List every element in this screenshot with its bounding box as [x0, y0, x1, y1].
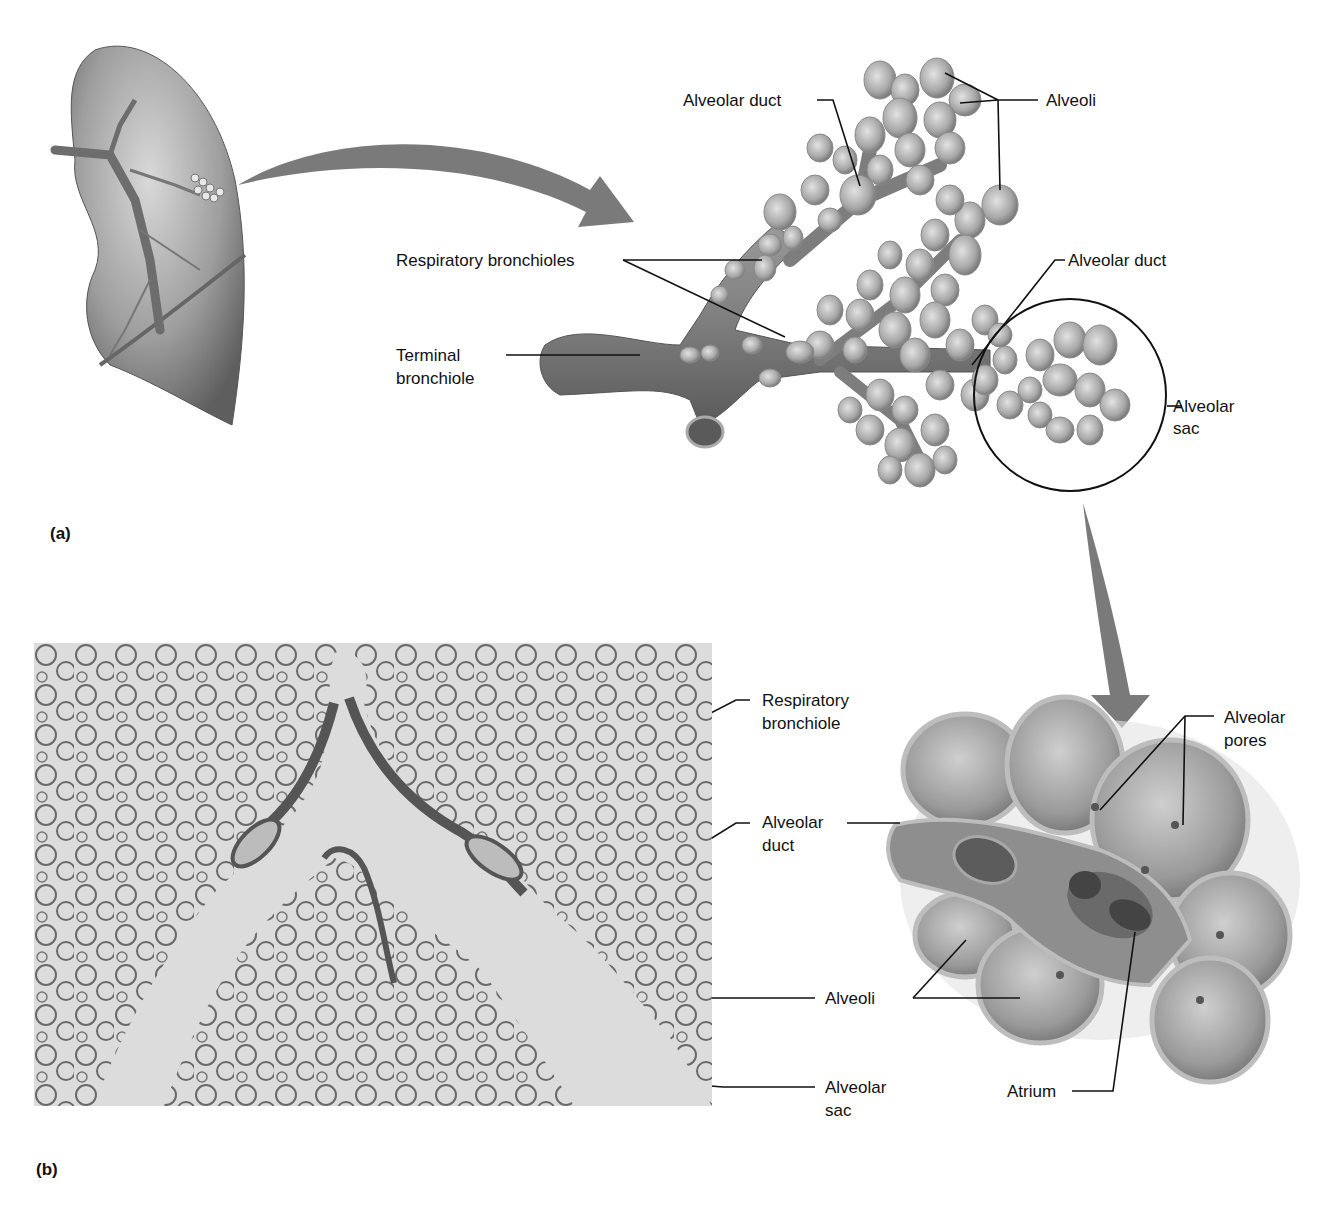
- label-respiratory-bronchiole-1: Respiratory: [762, 690, 849, 712]
- micrograph-tissue: [34, 643, 712, 1106]
- label-atrium: Atrium: [1007, 1081, 1056, 1103]
- down-arrow-icon: [1083, 503, 1150, 728]
- label-alveolar-sac-a-1: Alveolar: [1173, 396, 1234, 418]
- lung-illustration: [55, 46, 245, 425]
- label-alveolar-pores-2: pores: [1224, 730, 1267, 752]
- label-alveolar-sac-b-1: Alveolar: [825, 1077, 886, 1099]
- label-terminal-bronchiole-1: Terminal: [396, 345, 460, 367]
- label-alveoli-top: Alveoli: [1046, 90, 1096, 112]
- label-alveolar-duct-top: Alveolar duct: [683, 90, 781, 112]
- label-terminal-bronchiole-2: bronchiole: [396, 368, 474, 390]
- label-alveolar-pores-1: Alveolar: [1224, 707, 1285, 729]
- alveolar-sac-cutaway: [888, 697, 1300, 1082]
- curved-arrow-icon: [238, 144, 634, 227]
- lung-micrograph: [34, 643, 712, 1106]
- panel-label-a: (a): [50, 524, 71, 544]
- label-alveolar-sac-a-2: sac: [1173, 418, 1199, 440]
- label-alveolar-sac-b-2: sac: [825, 1100, 851, 1122]
- label-alveolar-duct-right: Alveolar duct: [1068, 250, 1166, 272]
- label-alveolar-duct-b-1: Alveolar: [762, 812, 823, 834]
- label-respiratory-bronchioles: Respiratory bronchioles: [396, 250, 575, 272]
- label-respiratory-bronchiole-2: bronchiole: [762, 713, 840, 735]
- label-alveoli-b: Alveoli: [825, 988, 875, 1010]
- panel-label-b: (b): [36, 1160, 58, 1180]
- label-alveolar-duct-b-2: duct: [762, 835, 794, 857]
